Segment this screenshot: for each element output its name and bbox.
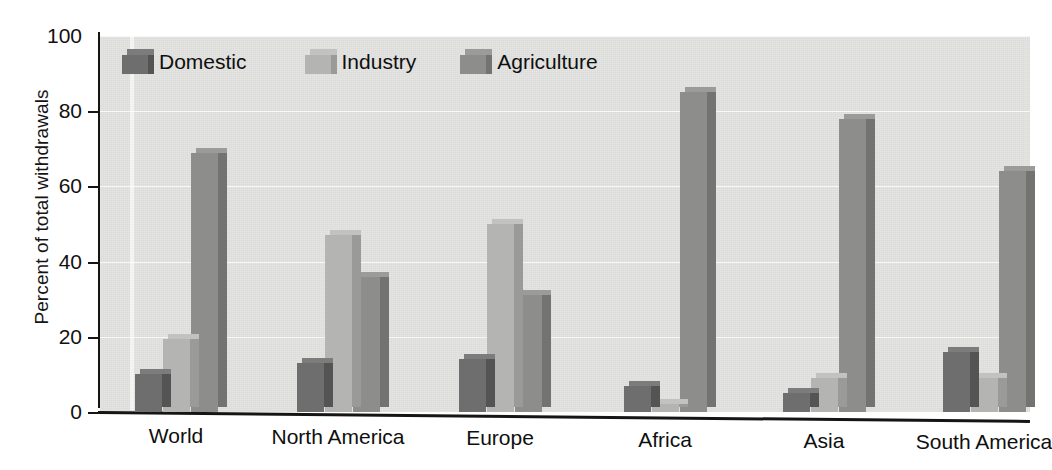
bar-side [380,272,389,407]
bar-side [486,354,495,407]
legend-swatch-face [460,55,486,74]
bar-domestic-asia [783,393,810,412]
plot-area [96,28,1030,416]
y-tick-mark [88,412,100,414]
bar-side [218,148,227,407]
y-tick-label: 40 [36,251,82,272]
gridline [100,262,1030,263]
bar-side [998,373,1007,407]
legend-swatch-top [465,49,492,55]
bar-side [352,230,361,407]
gridline [100,186,1030,187]
bar-domestic-africa [624,386,651,412]
bar-top [140,369,171,374]
bar-top [844,114,875,119]
legend-label: Agriculture [497,50,597,74]
bar-top [302,358,333,363]
y-tick-label: 60 [36,175,82,196]
bar-top [1004,166,1035,171]
bar-face [783,393,810,412]
legend-swatch-industry-icon [305,50,331,74]
bar-domestic-south-america [943,352,970,412]
bar-side [190,334,199,407]
bar-top [685,87,716,92]
y-axis-tick-labels: 020406080100 [26,0,82,470]
x-axis-label-europe: Europe [466,426,534,450]
y-tick-label: 80 [36,100,82,121]
bar-group [783,36,866,412]
bar-face [839,119,866,412]
legend-item-domestic[interactable]: Domestic [122,50,247,74]
legend-item-agriculture[interactable]: Agriculture [460,50,597,74]
bar-group [459,36,542,412]
x-axis-category-labels: WorldNorth AmericaEuropeAfricaAsiaSouth … [96,424,1030,464]
bar-groups [100,36,1030,412]
y-tick-mark [88,111,100,113]
bar-side [970,347,979,407]
bar-top [657,399,688,404]
legend-label: Domestic [159,50,247,74]
bar-domestic-north-america [297,363,324,412]
x-axis-label-africa: Africa [638,428,692,452]
bar-top [976,373,1007,378]
y-tick-mark [88,337,100,339]
bar-group [943,36,1026,412]
bar-top [948,347,979,352]
bar-domestic-europe [459,359,486,412]
bar-side [1026,166,1035,407]
bar-side [707,87,716,407]
gridline [100,337,1030,338]
bar-top [168,334,199,339]
bar-top [788,388,819,393]
bar-side [324,358,333,407]
bar-top [330,230,361,235]
x-axis-label-south-america: South America [916,430,1052,454]
bar-side [542,290,551,407]
bar-top [492,219,523,224]
x-axis-label-north-america: North America [271,425,404,449]
bar-face [297,363,324,412]
bar-domestic-world [135,374,162,412]
bar-top [520,290,551,295]
bar-side [838,373,847,407]
legend-swatch-face [305,55,331,74]
bar-face [624,386,651,412]
bar-side [162,369,171,407]
bar-agriculture-africa [680,92,707,412]
gridline [100,111,1030,112]
x-axis-label-asia: Asia [804,429,845,453]
x-axis-label-world: World [149,424,203,448]
y-tick-mark [88,262,100,264]
bar-agriculture-asia [839,119,866,412]
bar-group [297,36,380,412]
x-axis-line [98,411,1030,423]
y-tick-label: 100 [36,25,82,46]
bar-group [135,36,218,412]
bar-top [629,381,660,386]
y-tick-label: 0 [36,401,82,422]
bar-face [680,92,707,412]
legend-swatch-domestic-icon [122,50,148,74]
legend-swatch-agriculture-icon [460,50,486,74]
legend-swatch-top [310,49,337,55]
y-tick-mark [88,186,100,188]
bar-side [514,219,523,407]
bar-top [464,354,495,359]
chart-legend: DomesticIndustryAgriculture [122,50,598,74]
legend-label: Industry [342,50,417,74]
bar-face [135,374,162,412]
bar-top [816,373,847,378]
bar-top [196,148,227,153]
gridline [100,36,1030,37]
y-tick-label: 20 [36,326,82,347]
bar-group [624,36,707,412]
bar-top [358,272,389,277]
legend-item-industry[interactable]: Industry [305,50,417,74]
bar-side [866,114,875,407]
legend-swatch-face [122,55,148,74]
bar-face [459,359,486,412]
legend-swatch-top [127,49,154,55]
bar-face [943,352,970,412]
